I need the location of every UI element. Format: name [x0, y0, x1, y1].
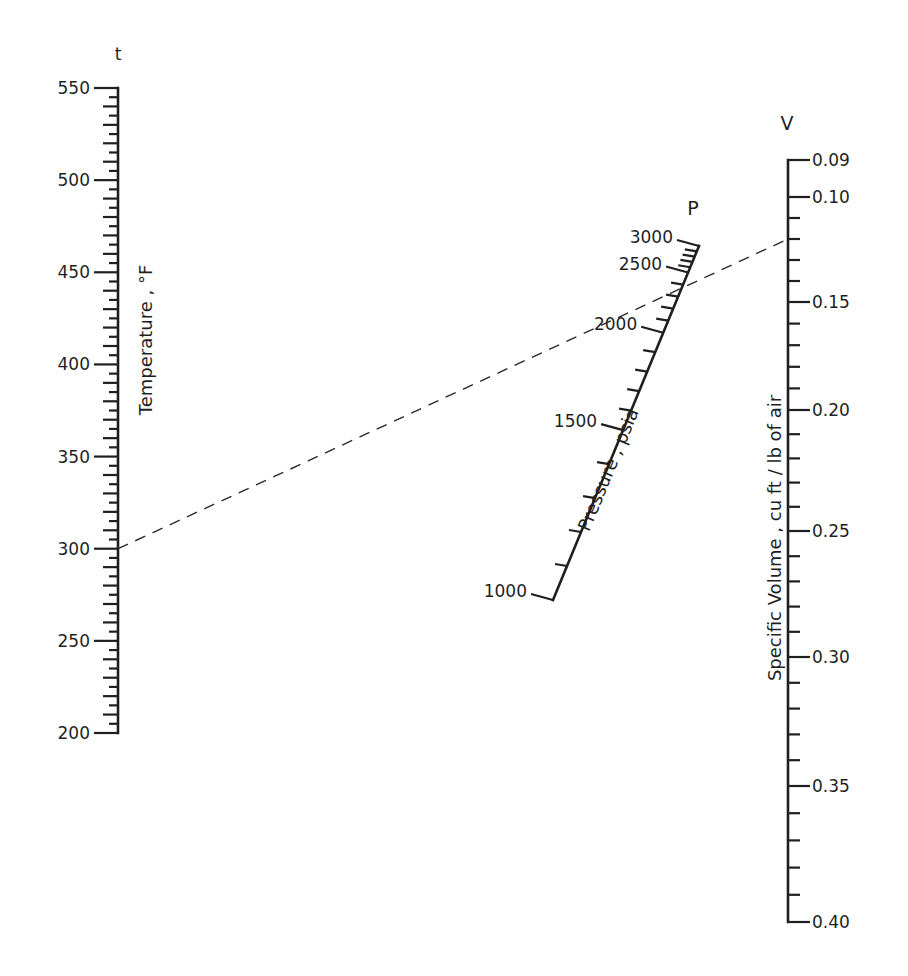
volume-symbol: V — [781, 112, 794, 134]
pressure-tick-label: 2000 — [594, 314, 637, 334]
temperature-tick-label: 350 — [58, 447, 90, 467]
pressure-minor-tick — [680, 260, 692, 262]
pressure-minor-tick — [671, 283, 683, 285]
temperature-tick-label: 400 — [58, 354, 90, 374]
temperature-tick-label: 550 — [58, 78, 90, 98]
pressure-major-tick — [666, 267, 688, 273]
pressure-minor-tick — [666, 295, 678, 297]
pressure-minor-tick — [656, 319, 668, 321]
temperature-scale: 200250300350400450500550 — [58, 78, 118, 743]
volume-tick-label: 0.25 — [812, 521, 850, 541]
pressure-minor-tick — [683, 255, 695, 257]
isopleth-line — [118, 239, 788, 549]
pressure-major-tick — [531, 594, 553, 600]
nomogram: 200250300350400450500550 100015002000250… — [0, 0, 908, 976]
volume-tick-label: 0.10 — [812, 187, 850, 207]
temperature-symbol: t — [115, 44, 122, 64]
pressure-minor-tick — [627, 389, 639, 391]
volume-tick-label: 0.20 — [812, 400, 850, 420]
volume-tick-label: 0.35 — [812, 776, 850, 796]
volume-tick-label: 0.40 — [812, 912, 850, 932]
volume-tick-label: 0.30 — [812, 647, 850, 667]
volume-tick-label: 0.09 — [812, 150, 850, 170]
pressure-tick-label: 2500 — [619, 254, 662, 274]
volume-tick-label: 0.15 — [812, 292, 850, 312]
pressure-minor-tick — [678, 265, 690, 267]
pressure-minor-tick — [635, 370, 647, 372]
pressure-minor-tick — [643, 350, 655, 352]
pressure-tick-label: 1500 — [554, 411, 597, 431]
volume-axis-title: Specific Volume , cu ft / lb of air — [764, 394, 785, 681]
pressure-major-tick — [677, 240, 699, 246]
temperature-tick-label: 300 — [58, 539, 90, 559]
pressure-symbol: P — [687, 197, 698, 219]
pressure-major-tick — [641, 327, 663, 333]
pressure-minor-tick — [569, 530, 581, 532]
temperature-axis-title: Temperature , °F — [135, 265, 156, 417]
pressure-tick-label: 1000 — [484, 581, 527, 601]
temperature-tick-label: 450 — [58, 262, 90, 282]
pressure-minor-tick — [661, 307, 673, 309]
temperature-tick-label: 250 — [58, 631, 90, 651]
pressure-minor-tick — [685, 249, 697, 251]
temperature-tick-label: 200 — [58, 723, 90, 743]
pressure-minor-tick — [555, 564, 567, 566]
pressure-scale: 10001500200025003000 — [484, 227, 699, 601]
specific-volume-scale: 0.090.100.150.200.250.300.350.40 — [788, 150, 850, 932]
pressure-tick-label: 3000 — [630, 227, 673, 247]
isopleth — [118, 239, 788, 549]
temperature-tick-label: 500 — [58, 170, 90, 190]
